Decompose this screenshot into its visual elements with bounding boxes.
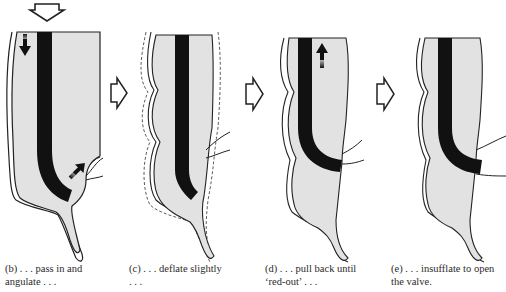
caption-d-line2: ‘red-out’ . . . (265, 275, 356, 288)
step-arrow-icon (246, 78, 263, 110)
caption-c: (c) . . . deflate slightly . . . (129, 262, 222, 288)
panel-e-colon (417, 38, 506, 262)
caption-d-line1: (d) . . . pull back until (265, 262, 356, 275)
caption-c-line1: (c) . . . deflate slightly (129, 262, 222, 275)
step-arrow-icon (111, 78, 127, 108)
panel-b-colon (7, 32, 103, 261)
panel-c-colon (141, 32, 230, 262)
caption-e: (e) . . . insufflate to open the valve. (391, 262, 494, 288)
caption-b-line1: (b) . . . pass in and (5, 262, 82, 275)
step-arrow-icon (377, 78, 394, 110)
caption-b: (b) . . . pass in and angulate . . . (5, 262, 82, 288)
entry-arrow-icon (30, 4, 64, 21)
caption-e-line2: the valve. (391, 275, 494, 288)
caption-d: (d) . . . pull back until ‘red-out’ . . … (265, 262, 356, 288)
caption-e-line1: (e) . . . insufflate to open (391, 262, 494, 275)
caption-b-line2: angulate . . . (5, 275, 82, 288)
caption-c-line2: . . . (129, 275, 222, 288)
panel-d-colon (281, 38, 364, 262)
colonoscopy-ileocecal-valve-diagram (0, 0, 506, 292)
